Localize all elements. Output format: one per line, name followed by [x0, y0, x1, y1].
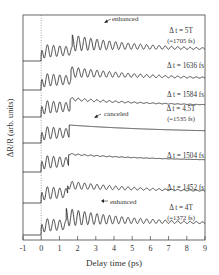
- y-axis-label: ΔR/R (arb. units): [5, 99, 15, 158]
- trace-line: [23, 125, 205, 143]
- arrowhead-icon: [94, 115, 98, 119]
- x-tick-label: 6: [148, 244, 152, 253]
- x-tick-label: 4: [112, 244, 116, 253]
- label-1452: Δ t = 1452 fs: [167, 184, 204, 192]
- trace-line: [23, 208, 205, 235]
- x-tick-label: -1: [20, 244, 27, 253]
- arrowhead-icon: [104, 20, 108, 24]
- x-tick-label: 3: [94, 244, 98, 253]
- label-1584: Δ t = 1584 fs: [167, 91, 204, 99]
- x-tick-label: 8: [185, 244, 189, 253]
- label-5T: Δ t = 5T: [169, 27, 193, 35]
- x-tick-label: 7: [167, 244, 171, 253]
- annotation-canceled: canceled: [104, 110, 129, 118]
- annotation-enhanced-bottom: enhanced: [110, 198, 137, 206]
- label-1636: Δ t = 1636 fs: [167, 62, 204, 70]
- arrowhead-icon: [101, 199, 104, 203]
- series-labels: Δ t = 5T (=1705 fs) Δ t = 1636 fs Δ t = …: [166, 27, 204, 222]
- x-tick-label: 5: [130, 244, 134, 253]
- x-axis-ticks: -10123456789: [20, 236, 207, 253]
- pump-probe-chart: -10123456789 Δ t = 5T (=1705 fs) Δ t = 1…: [0, 0, 219, 275]
- label-4T: Δ t = 4T: [169, 204, 193, 212]
- annotation-enhanced-top: enhanced: [112, 15, 139, 23]
- x-tick-label: 1: [57, 244, 61, 253]
- x-tick-label: 2: [76, 244, 80, 253]
- x-axis-label: Delay time (ps): [86, 258, 142, 268]
- trace-line: [23, 67, 205, 90]
- label-4.5T: Δ t = 4.5T: [166, 105, 196, 113]
- x-tick-label: 0: [39, 244, 43, 253]
- label-4.5T-fs: (=1535 fs): [167, 115, 195, 123]
- x-tick-label: 9: [203, 244, 207, 253]
- label-4T-fs: (=1372 fs): [167, 214, 195, 222]
- label-1504: Δ t = 1504 fs: [167, 152, 204, 160]
- label-5T-fs: (=1705 fs): [167, 37, 195, 45]
